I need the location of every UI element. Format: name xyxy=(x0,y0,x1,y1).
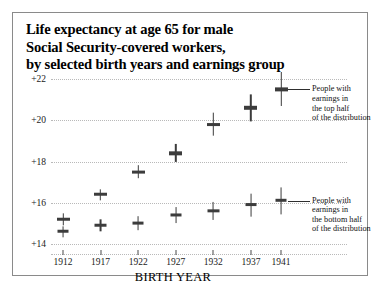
chart-title: Life expectancy at age 65 for male Socia… xyxy=(26,21,356,74)
data-marker xyxy=(132,217,144,231)
data-marker xyxy=(244,94,257,121)
data-marker xyxy=(208,202,220,220)
x-axis-tick-1932 xyxy=(213,250,214,255)
x-axis-tick-1922 xyxy=(138,250,139,255)
x-axis-title: BIRTH YEAR xyxy=(51,270,295,285)
data-marker xyxy=(57,226,69,237)
x-axis-label-1932: 1932 xyxy=(204,257,223,267)
point-estimate-bar xyxy=(275,88,288,91)
point-estimate-bar xyxy=(208,209,220,212)
annotation-line: earnings in xyxy=(312,94,371,104)
gridline-+16 xyxy=(51,203,347,204)
title-line-3: by selected birth years and earnings gro… xyxy=(26,56,356,74)
annotation-bottom-half: People withearnings inthe bottom halfof … xyxy=(312,196,371,234)
point-estimate-bar xyxy=(275,199,287,202)
leader-line-top xyxy=(288,89,310,90)
x-axis-label-1941: 1941 xyxy=(272,257,291,267)
title-line-1: Life expectancy at age 65 for male xyxy=(26,21,356,39)
annotation-line: the top half xyxy=(312,104,371,114)
y-axis-label-+16: +16 xyxy=(31,198,46,208)
y-axis-label-+18: +18 xyxy=(31,157,46,167)
x-axis-label-1922: 1922 xyxy=(129,257,148,267)
y-axis-label-+14: +14 xyxy=(31,239,46,249)
y-axis-label-+20: +20 xyxy=(31,115,46,125)
data-marker xyxy=(275,187,287,214)
x-axis-tick-1912 xyxy=(63,250,64,255)
annotation-line: of the distribution xyxy=(312,113,371,123)
gridline-+18 xyxy=(51,162,347,163)
point-estimate-bar xyxy=(244,106,257,109)
x-axis-tick-1917 xyxy=(100,250,101,255)
annotation-line: People with xyxy=(312,84,371,94)
point-estimate-bar xyxy=(170,214,182,217)
chart-figure: Life expectancy at age 65 for male Socia… xyxy=(12,12,368,276)
data-marker xyxy=(245,193,257,216)
plot-area: +14+16+18+20+221912191719221927193219371… xyxy=(51,79,347,244)
point-estimate-bar xyxy=(132,170,145,173)
data-marker xyxy=(275,72,288,106)
x-axis-tick-1937 xyxy=(250,250,251,255)
x-axis-label-1937: 1937 xyxy=(241,257,260,267)
title-line-2: Social Security-covered workers, xyxy=(26,39,356,57)
annotation-line: earnings in xyxy=(312,205,371,215)
point-estimate-bar xyxy=(94,193,107,196)
point-estimate-bar xyxy=(132,222,144,225)
data-marker xyxy=(169,144,182,162)
x-axis-tick-1941 xyxy=(281,250,282,255)
data-marker xyxy=(132,165,145,179)
data-marker xyxy=(170,207,182,223)
point-estimate-bar xyxy=(245,203,257,206)
annotation-top-half: People withearnings inthe top halfof the… xyxy=(312,84,371,122)
gridline-+14 xyxy=(51,244,347,245)
point-estimate-bar xyxy=(57,218,70,221)
point-estimate-bar xyxy=(207,123,220,126)
gridline-+22 xyxy=(51,79,347,80)
x-axis-tick-1927 xyxy=(175,250,176,255)
gridline-+20 xyxy=(51,120,347,121)
x-axis-line xyxy=(51,254,347,255)
x-axis-label-1912: 1912 xyxy=(54,257,73,267)
x-axis-label-1927: 1927 xyxy=(166,257,185,267)
leader-line-bottom xyxy=(288,201,310,202)
annotation-line: of the distribution xyxy=(312,224,371,234)
point-estimate-bar xyxy=(95,224,107,227)
data-marker xyxy=(207,113,220,136)
data-marker xyxy=(57,214,70,225)
annotation-line: People with xyxy=(312,196,371,206)
y-axis-label-+22: +22 xyxy=(31,74,46,84)
x-axis-label-1917: 1917 xyxy=(91,257,110,267)
data-marker xyxy=(94,189,107,200)
data-marker xyxy=(95,220,107,231)
point-estimate-bar xyxy=(57,230,69,233)
annotation-line: the bottom half xyxy=(312,215,371,225)
point-estimate-bar xyxy=(169,152,182,155)
